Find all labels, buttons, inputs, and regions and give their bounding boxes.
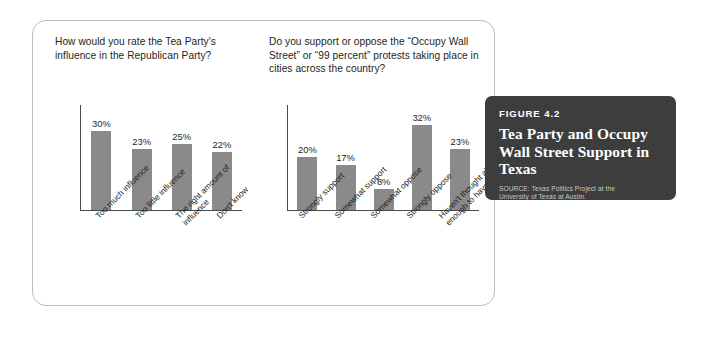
bar-value-label: 22% [212, 139, 231, 150]
bar-slot: 30% [91, 105, 111, 210]
figure-title: Tea Party and Occupy Wall Street Support… [499, 125, 662, 178]
bar-value-label: 20% [298, 144, 317, 155]
figure-source: SOURCE: Texas Politics Project at the Un… [499, 185, 662, 200]
bar-value-label: 32% [412, 112, 431, 123]
chart-question-tea-party: How would you rate the Tea Party's influ… [55, 35, 251, 62]
figure-card: How would you rate the Tea Party's influ… [32, 20, 495, 306]
bar-value-label: 25% [172, 131, 191, 142]
bar-value-label: 23% [450, 136, 469, 147]
plot-area-occupy: 20% 17% 8% 32% 23% [287, 105, 479, 211]
figure-source-line-2: University of Texas at Austin. [499, 193, 662, 200]
bar-slot: 23% [132, 105, 152, 210]
figure-number-label: FIGURE 4.2 [499, 108, 662, 119]
chart-question-occupy: Do you support or oppose the “Occupy Wal… [269, 35, 485, 76]
chart-panel-occupy: Do you support or oppose the “Occupy Wal… [255, 21, 496, 305]
figure-callout-box: FIGURE 4.2 Tea Party and Occupy Wall Str… [485, 96, 676, 200]
chart-panel-tea-party: How would you rate the Tea Party's influ… [33, 21, 261, 305]
plot-area-tea-party: 30% 23% 25% 22% Too much influence [80, 105, 242, 211]
bar-value-label: 23% [132, 136, 151, 147]
figure-source-line-1: SOURCE: Texas Politics Project at the [499, 185, 662, 193]
bar-slot: 25% [172, 105, 192, 210]
bar-value-label: 30% [92, 118, 111, 129]
bar-value-label: 17% [336, 152, 355, 163]
